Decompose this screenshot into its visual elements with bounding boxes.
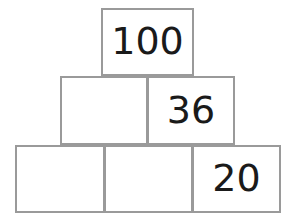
pyramid-cell-value: 20: [212, 159, 260, 197]
pyramid-cell-row2-col1[interactable]: [60, 76, 148, 145]
number-pyramid-diagram: 100 36 20: [0, 0, 296, 222]
pyramid-cell-row3-col1[interactable]: [15, 145, 105, 213]
pyramid-cell-value: 100: [111, 22, 184, 60]
pyramid-cell-row1-col1[interactable]: 100: [101, 8, 194, 76]
pyramid-cell-row3-col2[interactable]: [104, 145, 193, 213]
pyramid-cell-value: 36: [167, 91, 215, 129]
pyramid-cell-row3-col3[interactable]: 20: [192, 145, 281, 213]
pyramid-cell-row2-col2[interactable]: 36: [147, 76, 235, 145]
